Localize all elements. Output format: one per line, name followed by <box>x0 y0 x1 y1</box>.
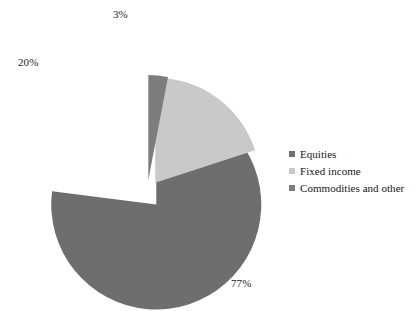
slice-value-label-fixed-income: 20% <box>18 57 38 68</box>
slice-value-label-commodities: 3% <box>113 9 128 20</box>
legend-swatch-icon-commodities <box>289 185 295 191</box>
legend-item-fixed-income[interactable]: Fixed income <box>289 163 417 179</box>
legend-label-fixed-income: Fixed income <box>300 165 361 177</box>
legend-swatch-icon-fixed-income <box>289 168 295 174</box>
slice-value-label-equities: 77% <box>231 278 251 289</box>
pie-chart: 3% 20% 77% Equities Fixed income Commodi… <box>0 0 420 311</box>
chart-legend: Equities Fixed income Commodities and ot… <box>289 146 417 197</box>
legend-label-commodities: Commodities and other <box>300 182 404 194</box>
legend-item-equities[interactable]: Equities <box>289 146 417 162</box>
legend-label-equities: Equities <box>300 148 336 160</box>
legend-swatch-icon-equities <box>289 151 295 157</box>
legend-item-commodities[interactable]: Commodities and other <box>289 180 417 196</box>
